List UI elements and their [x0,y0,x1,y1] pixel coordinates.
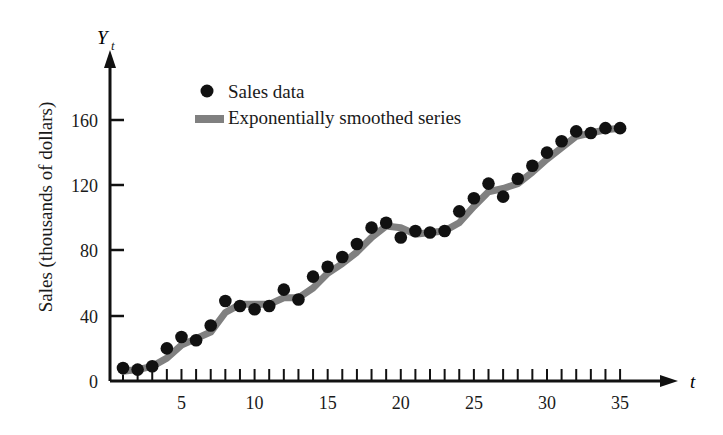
data-point [541,146,554,159]
data-point [409,225,422,238]
data-point [263,300,276,313]
data-point [117,362,130,375]
y-axis-symbol: Y t [97,27,115,53]
y-axis-label: Sales (thousands of dollars) [35,57,57,357]
y-axis-symbol-text: Y [97,27,110,48]
data-point [234,300,247,313]
data-point [278,283,291,296]
data-point [365,221,378,234]
data-point [424,226,437,239]
legend-label-smoothed-series: Exponentially smoothed series [228,107,461,128]
legend-dot-icon [201,85,214,98]
data-point [526,159,539,172]
data-point [599,122,612,135]
data-point [292,293,305,306]
data-point [190,334,203,347]
data-point [321,261,334,274]
data-point [146,360,159,373]
y-tick-label: 80 [80,241,98,261]
data-point [614,122,627,135]
data-point [497,190,510,203]
data-point [482,177,495,190]
y-axis [104,50,116,381]
y-tick-label: 0 [89,372,98,392]
data-point [219,295,232,308]
x-axis-label: t [690,371,696,392]
x-tick-label: 10 [246,393,264,413]
y-tick-label: 160 [71,111,98,131]
data-point [585,127,598,140]
legend: Sales data Exponentially smoothed series [195,81,461,128]
data-point [511,172,524,185]
x-tick-label: 35 [611,393,629,413]
y-tick-label: 120 [71,176,98,196]
data-point [336,251,349,264]
x-tick-label: 30 [538,393,556,413]
data-point [351,238,364,251]
data-point [248,303,261,316]
y-axis-tick-labels: 160 120 80 40 0 [71,111,98,392]
data-point [380,216,393,229]
legend-line-icon [195,115,224,123]
data-point [204,319,217,332]
x-tick-label: 20 [392,393,410,413]
chart-svg: 160 120 80 40 0 Y t t 5101520253035 Sale… [0,0,723,435]
data-point [394,231,407,244]
x-tick-label: 25 [465,393,483,413]
legend-label-sales-data: Sales data [228,81,305,102]
y-axis-symbol-subscript: t [111,38,115,53]
chart-container: Sales (thousands of dollars) 160 120 80 … [0,0,723,435]
data-point [131,363,144,376]
data-point [453,205,466,218]
y-tick-label: 40 [80,307,98,327]
data-point [161,342,174,355]
x-tick-label: 5 [177,393,186,413]
data-point [438,225,451,238]
data-point [468,192,481,205]
y-axis-ticks [110,120,124,316]
data-point [555,135,568,148]
x-tick-label: 15 [319,393,337,413]
x-axis-tick-labels: 5101520253035 [177,393,629,413]
x-axis-ticks [123,369,620,381]
data-point [175,331,188,344]
data-point [570,125,583,138]
data-point [307,270,320,283]
